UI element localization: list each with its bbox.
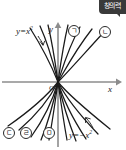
origin-label: O [49, 85, 54, 92]
upper-parabola-label: y=x2 [16, 26, 33, 36]
y-axis-arrow [55, 22, 62, 28]
marker-rieul[interactable]: ㄹ [20, 127, 32, 139]
category-badge-tail [116, 13, 120, 17]
upward-curves-left [30, 25, 58, 82]
figure-container: x y O y=x2 y=−x2 ㄱ ㄴ ㄷ ㄹ ㅁ 창의력 [0, 0, 126, 150]
marker-giyeok[interactable]: ㄱ [68, 25, 80, 37]
lower-parabola-label: y=−x2 [69, 130, 92, 140]
category-badge: 창의력 [99, 0, 126, 14]
axes-group [2, 22, 122, 147]
curve-up-left-2 [40, 26, 58, 82]
x-axis-arrow [116, 79, 122, 86]
annotation-leader-lower [85, 117, 93, 128]
marker-mieum[interactable]: ㅁ [43, 127, 55, 139]
marker-nieun[interactable]: ㄴ [99, 26, 111, 38]
parabola-family-plot [0, 0, 126, 150]
x-axis-label: x [108, 85, 112, 94]
curve-down-right-5 [58, 82, 110, 129]
upward-curves-right [58, 25, 104, 82]
marker-digeut[interactable]: ㄷ [3, 127, 15, 139]
y-axis-label: y [49, 25, 53, 34]
